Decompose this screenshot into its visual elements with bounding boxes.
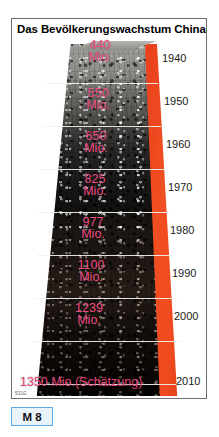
value-unit-2000: Mio.	[53, 314, 125, 326]
year-label-1960: 1960	[166, 138, 190, 150]
value-unit-1980: Mio.	[59, 228, 127, 240]
gridline-1960	[41, 169, 165, 170]
year-label-2000: 2000	[174, 310, 198, 322]
value-label-1940: 440 Mio.	[70, 39, 130, 63]
gridline-2000	[33, 341, 181, 342]
value-label-1950: 550 Mio.	[67, 87, 129, 111]
gridline-1990	[35, 298, 177, 299]
value-label-1990: 1100 Mio.	[56, 259, 126, 283]
status-badge: M 8	[11, 407, 53, 426]
year-label-1940: 1940	[162, 52, 186, 64]
year-label-2010: 2010	[176, 375, 200, 387]
value-unit-1960: Mio.	[64, 142, 128, 154]
value-unit-1990: Mio.	[56, 271, 126, 283]
source-code: 531G	[15, 391, 27, 396]
page-title: Das Bevölkerungswachstum Chinas	[12, 19, 206, 39]
infographic-root: Das Bevölkerungswachstum Chinas 1940 195…	[0, 0, 219, 437]
year-label-1950: 1950	[164, 95, 188, 107]
value-label-1960: 650 Mio.	[64, 130, 128, 154]
value-unit-1970: Mio.	[62, 185, 128, 197]
chart-figure: Das Bevölkerungswachstum Chinas 1940 195…	[11, 18, 207, 399]
gridline-1950	[43, 126, 161, 127]
chart-plot-area: 1940 1950 1960 1970 1980 1990 2000 2010 …	[12, 39, 207, 399]
estimate-label-2010: 1350 Mio.(Schätzung)	[20, 375, 142, 389]
year-label-1990: 1990	[172, 267, 196, 279]
value-label-2000: 1239 Mio.	[53, 302, 125, 326]
value-unit-1940: Mio.	[70, 51, 130, 63]
value-label-1970: 825 Mio.	[62, 173, 128, 197]
gridline-1980	[37, 255, 173, 256]
gridline-1970	[39, 212, 169, 213]
gridline-1940	[46, 83, 158, 84]
year-label-1980: 1980	[170, 224, 194, 236]
year-label-1970: 1970	[168, 181, 192, 193]
value-label-1980: 977 Mio.	[59, 216, 127, 240]
value-unit-1950: Mio.	[67, 99, 129, 111]
